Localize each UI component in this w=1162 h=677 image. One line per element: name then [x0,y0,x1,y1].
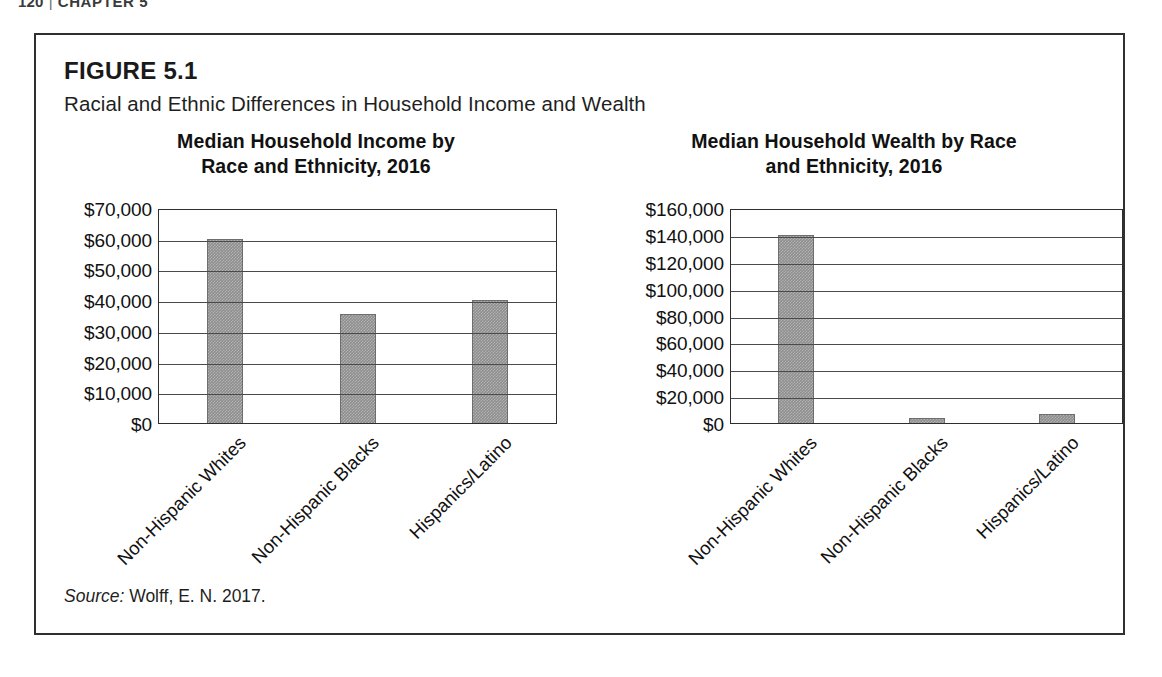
y-tick-label: $160,000 [646,200,724,219]
gridline [731,371,1122,372]
x-axis-labels-wealth: Non-Hispanic WhitesNon-Hispanic BlacksHi… [730,424,1123,604]
y-tick-label: $40,000 [84,292,152,311]
bar [909,418,945,423]
bars-layer-income [159,210,556,423]
bar [207,239,243,423]
bar [472,300,508,423]
chapter-title: CHAPTER 5 [58,0,148,10]
x-axis-label: Non-Hispanic Whites [664,432,821,589]
y-tick-label: $50,000 [84,261,152,280]
x-axis-label: Non-Hispanic Blacks [226,432,383,589]
bars-layer-wealth [731,210,1122,423]
y-axis-income: $0$10,000$20,000$30,000$40,000$50,000$60… [58,209,158,424]
gridline [159,364,556,365]
y-tick-label: $120,000 [646,253,724,272]
chart-title-income: Median Household Income by Race and Ethn… [36,129,596,179]
gridline [731,237,1122,238]
x-axis-label: Non-Hispanic Whites [93,432,250,589]
plot-area-wealth [730,209,1123,424]
running-head: 120|CHAPTER 5 [18,0,148,10]
gridline [159,241,556,242]
x-axis-labels-income: Non-Hispanic WhitesNon-Hispanic BlacksHi… [158,424,557,604]
y-tick-label: $0 [131,415,152,434]
y-tick-label: $30,000 [84,322,152,341]
gridline [731,344,1122,345]
gridline [159,394,556,395]
x-axis-label: Non-Hispanic Blacks [795,432,952,589]
chart-title-income-line1: Median Household Income by [36,129,596,154]
y-tick-label: $0 [703,415,724,434]
y-tick-label: $100,000 [646,280,724,299]
bar [340,314,376,423]
gridline [731,318,1122,319]
y-tick-label: $60,000 [656,334,724,353]
gridline [731,398,1122,399]
y-tick-label: $40,000 [656,361,724,380]
chart-title-wealth-line1: Median Household Wealth by Race [581,129,1127,154]
x-axis-label: Hispanics/Latino [359,432,516,589]
y-tick-label: $70,000 [84,200,152,219]
y-axis-wealth: $0$20,000$40,000$60,000$80,000$100,000$1… [617,209,730,424]
gridline [159,302,556,303]
y-tick-label: $80,000 [656,307,724,326]
plot-block-wealth: $0$20,000$40,000$60,000$80,000$100,000$1… [617,209,1123,424]
x-axis-label: Hispanics/Latino [926,432,1083,589]
source-note: Source: Wolff, E. N. 2017. [64,586,266,607]
chart-title-income-line2: Race and Ethnicity, 2016 [36,154,596,179]
y-tick-label: $10,000 [84,384,152,403]
bar [1039,414,1075,423]
figure-box: FIGURE 5.1 Racial and Ethnic Differences… [34,33,1125,635]
plot-area-income [158,209,557,424]
gridline [159,333,556,334]
y-tick-label: $60,000 [84,230,152,249]
chart-title-wealth-line2: and Ethnicity, 2016 [581,154,1127,179]
page-number: 120 [18,0,44,10]
plot-block-income: $0$10,000$20,000$30,000$40,000$50,000$60… [58,209,557,424]
running-head-separator: | [49,0,53,10]
charts-row: Median Household Income by Race and Ethn… [36,35,1123,633]
gridline [731,291,1122,292]
y-tick-label: $20,000 [84,353,152,372]
y-tick-label: $140,000 [646,226,724,245]
y-tick-label: $20,000 [656,388,724,407]
chart-title-wealth: Median Household Wealth by Race and Ethn… [581,129,1127,179]
source-keyword: Source: [64,586,124,606]
gridline [159,271,556,272]
gridline [731,264,1122,265]
source-text: Wolff, E. N. 2017. [129,586,266,606]
